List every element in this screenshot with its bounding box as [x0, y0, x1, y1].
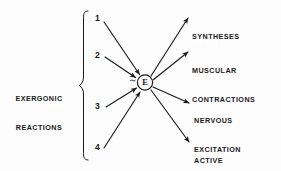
outgoing-arrows-group — [151, 18, 189, 142]
exergonic-reactions-label-line1: EXERGONIC — [6, 94, 72, 104]
output-label-muscular-contractions-line1: MUSCULAR — [192, 66, 255, 76]
arrow-output-active-transport — [151, 90, 189, 142]
incoming-arrows-group — [104, 22, 140, 148]
energy-node-label: E — [142, 78, 148, 87]
squiggle-mark-icon — [131, 80, 136, 81]
arrow-input-2 — [105, 57, 136, 78]
arrow-output-muscular-contractions — [153, 52, 188, 80]
output-label-syntheses-line1: SYNTHESES — [192, 32, 240, 42]
exergonic-reactions-label-line2: REACTIONS — [6, 123, 72, 133]
input-number-4: 4 — [95, 143, 100, 152]
output-label-active-transport-line1: ACTIVE — [194, 156, 243, 166]
arrow-input-1 — [104, 22, 140, 75]
input-number-2: 2 — [95, 51, 100, 60]
left-curly-brace-icon — [80, 11, 89, 160]
input-number-1: 1 — [95, 14, 100, 23]
output-label-nervous-excitation-line1: NERVOUS — [194, 116, 241, 126]
input-number-3: 3 — [95, 102, 100, 111]
output-label-active-transport: ACTIVE TRANSPORT — [194, 137, 243, 171]
exergonic-reactions-label: EXERGONIC REACTIONS — [6, 75, 72, 152]
arrow-input-4 — [104, 92, 140, 148]
diagram-canvas: E EXERGONIC REACTIONS 1 2 3 4 SYNTHESES … — [0, 0, 281, 171]
